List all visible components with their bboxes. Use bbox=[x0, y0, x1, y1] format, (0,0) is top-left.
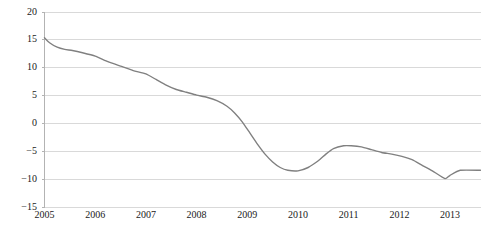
chart-container: 20151050−5−10−15 20052006200720082009201… bbox=[0, 0, 481, 231]
x-tick-label-2013: 2013 bbox=[440, 210, 460, 220]
x-tick-label-2008: 2008 bbox=[187, 210, 207, 220]
x-tick-label-2009: 2009 bbox=[237, 210, 257, 220]
x-tick-label-2007: 2007 bbox=[136, 210, 156, 220]
x-axis-labels: 200520062007200820092010201120122013 bbox=[0, 0, 481, 231]
x-tick-label-2005: 2005 bbox=[35, 210, 55, 220]
x-tick-label-2012: 2012 bbox=[389, 210, 409, 220]
x-tick-label-2010: 2010 bbox=[288, 210, 308, 220]
x-tick-label-2006: 2006 bbox=[85, 210, 105, 220]
x-tick-label-2011: 2011 bbox=[339, 210, 359, 220]
